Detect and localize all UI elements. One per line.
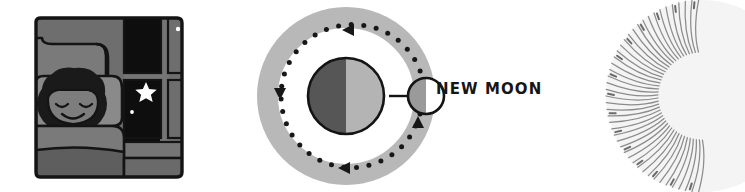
earth-shadow-half: [308, 58, 346, 134]
moon-phase-figure: NEW MOON: [0, 0, 745, 192]
sun-panel: [550, 0, 745, 192]
star-small-dot-icon: [130, 110, 134, 114]
bedroom-scene-contents: [30, 14, 190, 182]
new-moon-label-text: NEW MOON: [436, 80, 542, 98]
star-corner-dot-icon: [176, 27, 180, 31]
earth: [308, 58, 384, 134]
bedroom-scene-panel: [0, 0, 250, 192]
bedroom-illustration: [0, 0, 250, 192]
new-moon-label: NEW MOON: [436, 82, 542, 97]
window-sill: [124, 142, 188, 158]
moon-phase-diagram-panel: NEW MOON: [250, 0, 550, 192]
earth-lit-half: [346, 58, 384, 134]
blanket-lower: [36, 147, 124, 178]
sun-illustration: [550, 0, 745, 192]
sun-body: [606, 0, 745, 192]
bed-foot-panel: [124, 158, 188, 178]
moon-shadow-half: [408, 78, 426, 114]
